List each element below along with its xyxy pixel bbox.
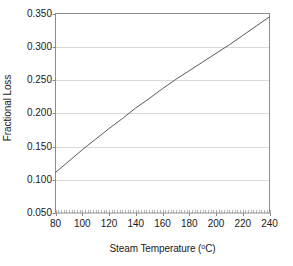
x-tick-label: 120	[94, 219, 124, 229]
x-axis-title-tail: C)	[205, 243, 215, 254]
x-tick-label: 140	[121, 219, 151, 229]
major-tick-marks	[53, 15, 271, 217]
chart-container: Fractional Loss 0.0500.1000.1500.2000.25…	[0, 0, 293, 266]
x-tick-label: 100	[67, 219, 97, 229]
x-tick-label: 180	[174, 219, 204, 229]
x-tick-label: 200	[201, 219, 231, 229]
x-tick-label: 160	[148, 219, 178, 229]
x-tick-label: 80	[41, 219, 71, 229]
gridlines	[56, 48, 270, 181]
data-series-line	[56, 17, 270, 173]
x-axis-title-main: Steam Temperature (	[109, 243, 201, 254]
x-tick-label: 220	[228, 219, 258, 229]
x-tick-label: 240	[255, 219, 285, 229]
x-axis-title: Steam Temperature (oC)	[55, 243, 270, 254]
